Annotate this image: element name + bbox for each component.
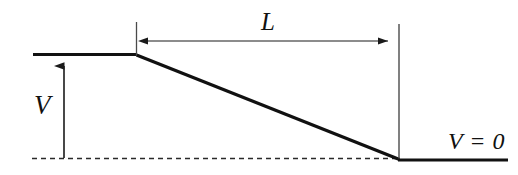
diagram-canvas bbox=[0, 0, 518, 175]
potential-label: V bbox=[34, 92, 51, 119]
zero-potential-label: V = 0 bbox=[448, 129, 505, 153]
length-label: L bbox=[261, 9, 275, 34]
potential-profile-diagram: V L V = 0 bbox=[0, 0, 518, 175]
potential-ramp-line bbox=[137, 55, 400, 160]
